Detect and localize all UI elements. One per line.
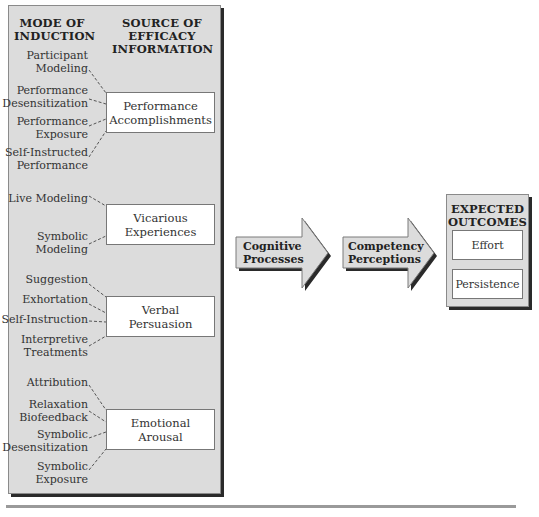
source-verbal-persuasion: Verbal Persuasion: [106, 296, 215, 337]
mode-line: Self-Instructed: [5, 146, 88, 159]
mode-line: Performance: [2, 84, 88, 97]
mode-line: Biofeedback: [19, 411, 88, 424]
mode-symbolic-desensitization: Symbolic Desensitization: [2, 428, 88, 454]
mode-line: Performance: [17, 115, 88, 128]
arrow-line: Cognitive: [243, 240, 304, 253]
mode-line: Symbolic: [35, 230, 88, 243]
mode-line: Treatments: [21, 346, 88, 359]
cognitive-processes-arrow: Cognitive Processes: [243, 240, 304, 266]
outcome-persistence: Persistence: [452, 269, 523, 299]
mode-live-modeling: Live Modeling: [8, 192, 88, 205]
mode-performance-desensitization: Performance Desensitization: [2, 84, 88, 110]
mode-self-instruction: Self-Instruction: [1, 313, 88, 326]
mode-suggestion: Suggestion: [25, 273, 88, 286]
mode-line: Interpretive: [21, 333, 88, 346]
mode-line: Attribution: [27, 376, 88, 389]
mode-line: Suggestion: [25, 273, 88, 286]
mode-attribution: Attribution: [27, 376, 88, 389]
source-line: Performance: [109, 99, 212, 113]
source-line: Arousal: [131, 430, 190, 444]
title-line: OUTCOMES: [446, 216, 529, 229]
mode-interpretive-treatments: Interpretive Treatments: [21, 333, 88, 359]
mode-self-instructed-performance: Self-Instructed Performance: [5, 146, 88, 172]
mode-line: Live Modeling: [8, 192, 88, 205]
source-line: Verbal: [129, 303, 193, 317]
mode-symbolic-modeling: Symbolic Modeling: [35, 230, 88, 256]
bottom-divider: [6, 505, 516, 508]
outcome-effort: Effort: [452, 230, 523, 260]
expected-outcomes-title: EXPECTED OUTCOMES: [446, 203, 529, 229]
source-line: Emotional: [131, 416, 190, 430]
mode-participant-modeling: Participant Modeling: [27, 49, 88, 75]
mode-exhortation: Exhortation: [22, 293, 88, 306]
mode-line: Performance: [5, 159, 88, 172]
source-emotional-arousal: Emotional Arousal: [106, 409, 215, 450]
mode-line: Relaxation: [19, 398, 88, 411]
source-line: Accomplishments: [109, 113, 212, 127]
mode-line: Desensitization: [2, 441, 88, 454]
mode-line: Self-Instruction: [1, 313, 88, 326]
arrow-line: Processes: [243, 253, 304, 266]
mode-line: Symbolic: [36, 460, 88, 473]
mode-line: Exposure: [17, 128, 88, 141]
arrow-line: Competency: [348, 240, 424, 253]
mode-line: Desensitization: [2, 97, 88, 110]
source-line: Vicarious: [125, 211, 197, 225]
mode-performance-exposure: Performance Exposure: [17, 115, 88, 141]
source-vicarious-experiences: Vicarious Experiences: [106, 204, 215, 245]
mode-line: Exhortation: [22, 293, 88, 306]
mode-line: Modeling: [35, 243, 88, 256]
mode-relaxation-biofeedback: Relaxation Biofeedback: [19, 398, 88, 424]
arrow-line: Perceptions: [348, 253, 424, 266]
mode-symbolic-exposure: Symbolic Exposure: [36, 460, 88, 486]
mode-line: Symbolic: [2, 428, 88, 441]
mode-line: Modeling: [27, 62, 88, 75]
mode-line: Exposure: [36, 473, 88, 486]
mode-line: Participant: [27, 49, 88, 62]
source-line: Experiences: [125, 225, 197, 239]
source-performance-accomplishments: Performance Accomplishments: [106, 92, 215, 133]
source-line: Persuasion: [129, 317, 193, 331]
competency-perceptions-arrow: Competency Perceptions: [348, 240, 424, 266]
